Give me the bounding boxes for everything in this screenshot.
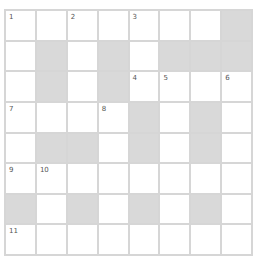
grid-cell[interactable]: 7 [6,103,35,132]
grid-cell[interactable] [99,195,128,224]
grid-cell[interactable] [191,225,220,254]
clue-number: 3 [133,14,137,21]
grid-cell[interactable] [68,72,97,101]
block-cell [99,42,128,71]
grid-cell[interactable]: 10 [37,164,66,193]
grid-cell[interactable] [99,11,128,40]
grid-cell[interactable] [99,164,128,193]
grid-cell[interactable] [222,164,251,193]
grid-cell[interactable] [68,225,97,254]
grid-cell[interactable] [191,72,220,101]
grid-cell[interactable]: 2 [68,11,97,40]
grid-cell[interactable]: 4 [130,72,159,101]
block-cell [37,42,66,71]
block-cell [37,134,66,163]
block-cell [191,134,220,163]
block-cell [130,134,159,163]
grid-cell[interactable]: 1 [6,11,35,40]
grid-cell[interactable] [68,42,97,71]
grid-cell[interactable] [191,164,220,193]
block-cell [130,195,159,224]
clue-number: 6 [225,75,229,82]
grid-cell[interactable] [99,225,128,254]
block-cell [191,42,220,71]
grid-cell[interactable] [130,164,159,193]
block-cell [99,72,128,101]
clue-number: 5 [163,75,167,82]
crossword-grid: 1234567891011 [4,9,253,256]
grid-cell[interactable] [99,134,128,163]
grid-cell[interactable] [68,103,97,132]
grid-cell[interactable] [191,11,220,40]
clue-number: 9 [9,167,13,174]
grid-cell[interactable]: 11 [6,225,35,254]
block-cell [68,195,97,224]
grid-cell[interactable] [37,225,66,254]
grid-cell[interactable] [160,103,189,132]
grid-cell[interactable]: 6 [222,72,251,101]
block-cell [191,195,220,224]
block-cell [222,42,251,71]
clue-number: 8 [102,106,106,113]
grid-cell[interactable] [6,134,35,163]
grid-cell[interactable] [160,11,189,40]
block-cell [222,11,251,40]
clue-number: 4 [133,75,137,82]
block-cell [68,134,97,163]
grid-cell[interactable] [160,134,189,163]
clue-number: 1 [9,14,13,21]
clue-number: 11 [9,228,18,235]
block-cell [37,72,66,101]
grid-cell[interactable] [130,225,159,254]
grid-cell[interactable] [37,11,66,40]
grid-cell[interactable]: 8 [99,103,128,132]
clue-number: 2 [71,14,75,21]
grid-cell[interactable] [130,42,159,71]
grid-cell[interactable]: 5 [160,72,189,101]
clue-number: 10 [40,167,49,174]
grid-cell[interactable] [160,225,189,254]
grid-cell[interactable] [222,103,251,132]
grid-cell[interactable] [222,134,251,163]
block-cell [6,195,35,224]
grid-cell[interactable] [37,103,66,132]
block-cell [191,103,220,132]
grid-cell[interactable]: 9 [6,164,35,193]
grid-cell[interactable] [37,195,66,224]
grid-cell[interactable] [6,72,35,101]
grid-cell[interactable] [160,195,189,224]
grid-cell[interactable] [160,164,189,193]
block-cell [130,103,159,132]
grid-cell[interactable] [222,225,251,254]
grid-cell[interactable] [68,164,97,193]
block-cell [160,42,189,71]
grid-cell[interactable]: 3 [130,11,159,40]
grid-cell[interactable] [6,42,35,71]
clue-number: 7 [9,106,13,113]
grid-cell[interactable] [222,195,251,224]
